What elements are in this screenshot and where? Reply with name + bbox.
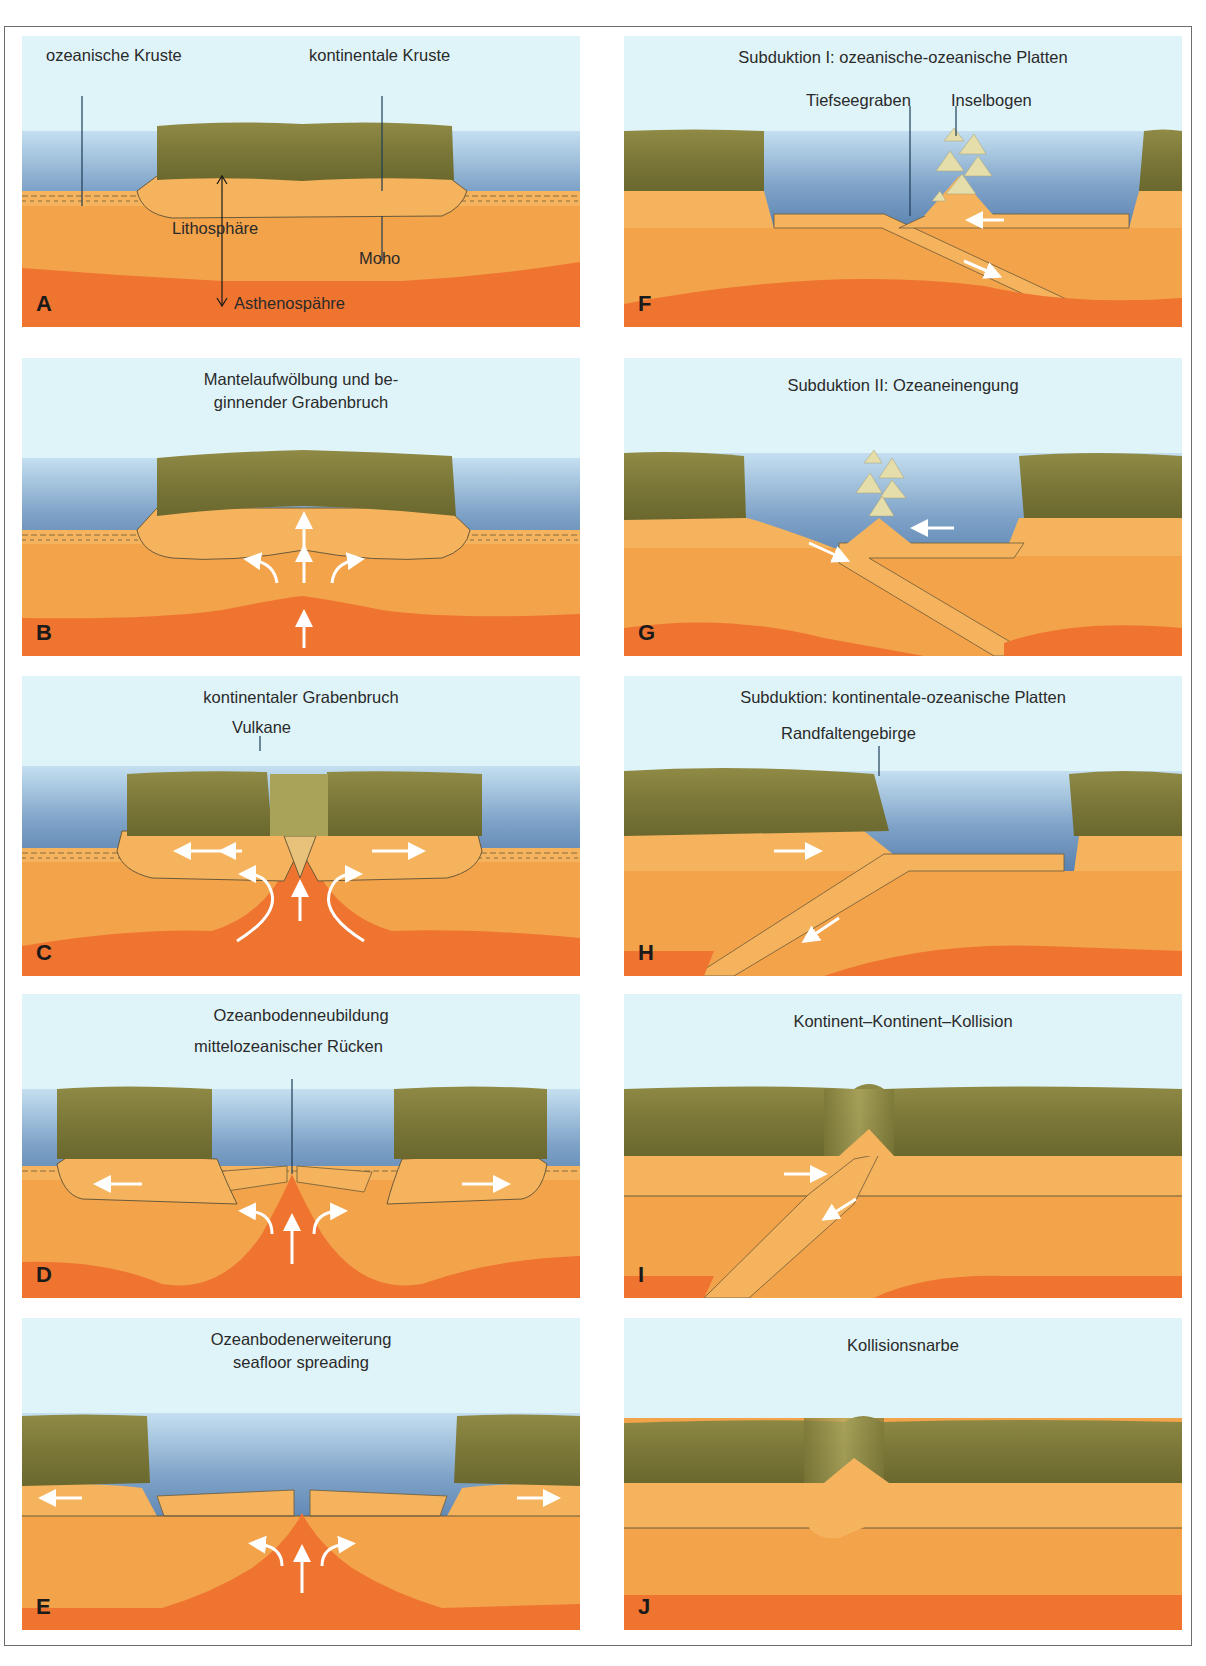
panel-g: Subduktion II: Ozeaneinengung G [624,358,1182,656]
title-line: seafloor spreading [22,1351,580,1374]
label-volcanoes: Vulkane [232,718,291,737]
panel-letter: J [638,1594,650,1620]
panel-d: Ozeanbodenneubildung mittelozeanischer R… [22,994,580,1298]
panel-title: Subduktion I: ozeanische-ozeanische Plat… [624,46,1182,69]
panel-letter: B [36,620,52,646]
continental-root [137,176,467,218]
panel-h: Subduktion: kontinentale-ozeanische Plat… [624,676,1182,976]
panel-j-illustration [624,1318,1182,1630]
title-line: ginnender Grabenbruch [22,391,580,414]
panel-f: Subduktion I: ozeanische-ozeanische Plat… [624,36,1182,327]
panel-title: Subduktion: kontinentale-ozeanische Plat… [624,686,1182,709]
panel-c: kontinentaler Grabenbruch Vulkane C [22,676,580,976]
panel-letter: H [638,940,654,966]
panel-letter: F [638,291,651,317]
title-line: Kontinent–Kontinent–Kollision [624,1010,1182,1033]
panel-a-illustration [22,36,580,327]
title-line: Mantelaufwölbung und be- [22,368,580,391]
panel-e: Ozeanbodenerweiterung seafloor spreading… [22,1318,580,1630]
panel-a: ozeanische Kruste kontinentale Kruste Li… [22,36,580,327]
title-line: Ozeanbodenneubildung [22,1004,580,1027]
panel-title: Subduktion II: Ozeaneinengung [624,374,1182,397]
panel-title: Kontinent–Kontinent–Kollision [624,1010,1182,1033]
title-line: Ozeanbodenerweiterung [22,1328,580,1351]
label-trench: Tiefseegraben [806,91,911,110]
title-line: Subduktion I: ozeanische-ozeanische Plat… [624,46,1182,69]
label-oceanic-crust: ozeanische Kruste [46,46,182,65]
panel-letter: A [36,291,52,317]
panel-letter: E [36,1594,51,1620]
panel-letter: C [36,940,52,966]
label-island-arc: Inselbogen [951,91,1032,110]
panel-b: Mantelaufwölbung und be- ginnender Grabe… [22,358,580,656]
panel-h-illustration [624,676,1182,976]
label-fold-mountains: Randfaltengebirge [781,724,916,743]
panel-letter: D [36,1262,52,1288]
label-lithosphere: Lithosphäre [172,219,258,238]
panel-title: Mantelaufwölbung und be- ginnender Grabe… [22,368,580,414]
panel-f-illustration [624,36,1182,327]
title-line: Subduktion: kontinentale-ozeanische Plat… [624,686,1182,709]
continental-crust [157,122,454,181]
panel-j: Kollisionsnarbe J [624,1318,1182,1630]
panel-i: Kontinent–Kontinent–Kollision I [624,994,1182,1298]
panel-letter: G [638,620,655,646]
label-moho: Moho [359,249,400,268]
title-line: Subduktion II: Ozeaneinengung [624,374,1182,397]
panel-title: Ozeanbodenerweiterung seafloor spreading [22,1328,580,1374]
label-continental-crust: kontinentale Kruste [309,46,450,65]
panel-title: kontinentaler Grabenbruch [22,686,580,709]
panel-g-illustration [624,358,1182,656]
panel-title: Ozeanbodenneubildung [22,1004,580,1027]
title-line: Kollisionsnarbe [624,1334,1182,1357]
panel-i-illustration [624,994,1182,1298]
panel-letter: I [638,1262,644,1288]
panel-title: Kollisionsnarbe [624,1334,1182,1357]
title-line: kontinentaler Grabenbruch [22,686,580,709]
label-asthenosphere: Asthenospähre [234,294,345,313]
label-mid-ocean-ridge: mittelozeanischer Rücken [194,1037,383,1056]
panel-c-illustration [22,676,580,976]
